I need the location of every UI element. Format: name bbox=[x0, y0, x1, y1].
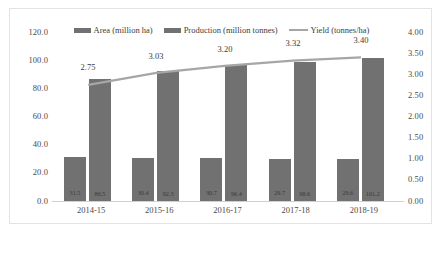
x-axis-label-2014-15: 2014-15 bbox=[57, 205, 125, 215]
yield-label-2015-16: 3.03 bbox=[136, 51, 176, 61]
x-axis-baseline bbox=[52, 201, 404, 202]
right-axis-tick-050: 0.50 bbox=[408, 174, 423, 184]
right-axis-tick-400: 4.00 bbox=[408, 27, 423, 37]
left-axis-tick-120: 120.0 bbox=[12, 27, 48, 37]
right-axis-tick-200: 2.00 bbox=[408, 111, 423, 121]
right-axis-tick-000: 0.00 bbox=[408, 196, 423, 206]
legend-line-yield-icon bbox=[289, 29, 308, 31]
left-axis-tick-20: 20.0 bbox=[12, 167, 48, 177]
right-axis-tick-350: 3.50 bbox=[408, 48, 423, 58]
right-axis-tick-250: 2.50 bbox=[408, 90, 423, 100]
yield-label-2017-18: 3.32 bbox=[273, 38, 313, 48]
x-axis-label-2015-16: 2015-16 bbox=[125, 205, 193, 215]
yield-label-2014-15: 2.75 bbox=[68, 62, 108, 72]
yield-label-2018-19: 3.40 bbox=[341, 35, 381, 45]
yield-line-series bbox=[57, 32, 398, 201]
left-axis-tick-100: 100.0 bbox=[12, 55, 48, 65]
chart-container: Area (million ha) Production (million to… bbox=[9, 8, 432, 224]
left-axis-tick-60: 60.0 bbox=[12, 111, 48, 121]
left-axis-tick-0: 0.0 bbox=[12, 196, 48, 206]
plot-area: 31.5 86.5 30.4 92.3 30.7 96.4 29.7 bbox=[57, 32, 398, 201]
right-axis-tick-100: 1.00 bbox=[408, 153, 423, 163]
yield-polyline bbox=[88, 57, 361, 85]
x-axis-label-2018-19: 2018-19 bbox=[330, 205, 398, 215]
x-axis-label-2017-18: 2017-18 bbox=[262, 205, 330, 215]
right-axis-tick-300: 3.00 bbox=[408, 69, 423, 79]
left-axis-tick-40: 40.0 bbox=[12, 139, 48, 149]
yield-label-2016-17: 3.20 bbox=[205, 44, 245, 54]
left-axis-tick-80: 80.0 bbox=[12, 83, 48, 93]
x-axis-label-2016-17: 2016-17 bbox=[193, 205, 261, 215]
right-axis-tick-150: 1.50 bbox=[408, 132, 423, 142]
